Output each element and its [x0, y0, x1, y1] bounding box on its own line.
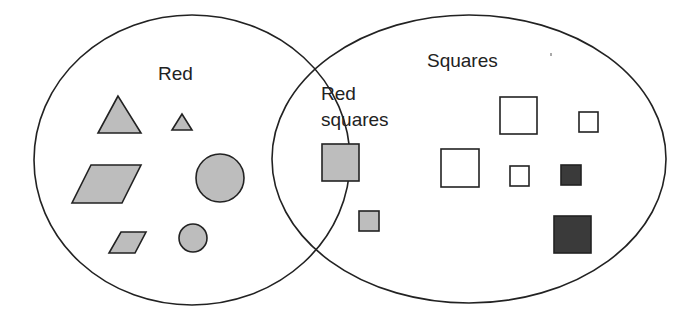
- set-squares-label: Squares: [427, 50, 498, 71]
- red-triangle-small: [172, 114, 192, 130]
- red-square-large: [322, 144, 359, 181]
- empty-square-large-left: [441, 149, 479, 187]
- red-parallelogram-small: [109, 232, 146, 253]
- empty-square-small-middle: [510, 166, 529, 186]
- dark-square-small: [561, 165, 581, 185]
- red-circle-small: [179, 224, 207, 252]
- red-triangle-large: [98, 96, 141, 133]
- empty-square-small-top: [579, 112, 598, 132]
- venn-diagram: Red Squares Red squares: [0, 0, 693, 324]
- set-red-outline: [34, 15, 350, 305]
- red-circle-large: [196, 154, 244, 202]
- empty-square-large-top: [500, 97, 537, 134]
- set-red-label: Red: [158, 63, 193, 84]
- intersection-label-line2: squares: [321, 109, 389, 130]
- red-square-small: [359, 211, 379, 231]
- speck-artifact: [550, 53, 552, 56]
- red-parallelogram-large: [72, 165, 141, 203]
- dark-square-large: [554, 216, 591, 253]
- intersection-label-line1: Red: [321, 83, 356, 104]
